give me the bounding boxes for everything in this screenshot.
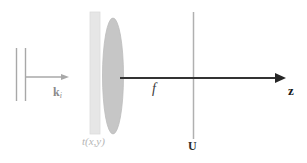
transparency-label: t(x,y) [82, 136, 105, 147]
output-field-label: U [188, 140, 197, 152]
optical-axis-arrowhead [275, 73, 286, 83]
optics-figure: ki t(x,y) f U z [0, 0, 307, 163]
incident-wavevector-subscript: i [60, 91, 62, 100]
axis-label: z [288, 84, 294, 97]
transparency-plate [90, 12, 100, 134]
incident-wavevector-symbol: k [53, 85, 60, 99]
incident-wavevector-label: ki [53, 86, 62, 100]
incident-ray-arrowhead [61, 74, 69, 80]
focal-length-label: f [152, 82, 156, 96]
lens [103, 18, 124, 134]
